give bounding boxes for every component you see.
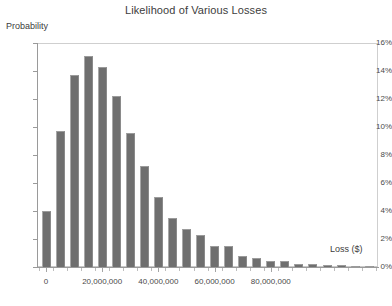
- x-tick-label: 40,000,000: [138, 277, 178, 286]
- x-minor-tick-mark: [194, 268, 195, 271]
- x-minor-tick-mark: [264, 268, 265, 271]
- x-tick-mark: [271, 268, 272, 272]
- bar: [280, 261, 289, 267]
- x-minor-tick-mark: [67, 268, 68, 271]
- bar: [365, 266, 374, 267]
- bar: [323, 265, 332, 267]
- likelihood-of-losses-chart: Likelihood of Various Losses Probability…: [0, 0, 392, 306]
- bar: [252, 258, 261, 267]
- x-minor-tick-mark: [123, 268, 124, 271]
- x-minor-tick-mark: [151, 268, 152, 271]
- bar: [140, 166, 149, 267]
- bar: [266, 261, 275, 267]
- x-minor-tick-mark: [250, 268, 251, 271]
- x-minor-tick-mark: [362, 268, 363, 271]
- bar: [210, 246, 219, 267]
- bar: [126, 133, 135, 267]
- x-tick-mark: [102, 268, 103, 272]
- bar: [98, 67, 107, 267]
- x-minor-tick-mark: [39, 268, 40, 271]
- x-tick-label: 60,000,000: [195, 277, 235, 286]
- x-tick-mark: [215, 268, 216, 272]
- bar: [168, 218, 177, 267]
- bar: [224, 246, 233, 267]
- x-tick-label: 80,000,000: [251, 277, 291, 286]
- x-minor-tick-mark: [376, 268, 377, 271]
- x-minor-tick-mark: [334, 268, 335, 271]
- bar: [308, 264, 317, 267]
- y-tick-mark: [33, 267, 37, 268]
- bar: [238, 256, 247, 267]
- x-minor-tick-mark: [165, 268, 166, 271]
- x-minor-tick-mark: [53, 268, 54, 271]
- x-minor-tick-mark: [222, 268, 223, 271]
- bar: [196, 235, 205, 267]
- x-tick-label: 0: [44, 277, 48, 286]
- x-minor-tick-mark: [292, 268, 293, 271]
- x-axis-label: Loss ($): [330, 244, 363, 254]
- bar: [56, 131, 65, 267]
- x-minor-tick-mark: [236, 268, 237, 271]
- x-minor-tick-mark: [348, 268, 349, 271]
- bar: [182, 229, 191, 267]
- bar: [337, 265, 346, 267]
- y-axis-label: Probability: [6, 21, 48, 31]
- x-minor-tick-mark: [109, 268, 110, 271]
- chart-title: Likelihood of Various Losses: [0, 4, 392, 16]
- bar: [112, 96, 121, 267]
- x-minor-tick-mark: [81, 268, 82, 271]
- bar: [70, 75, 79, 267]
- x-tick-mark: [158, 268, 159, 272]
- x-minor-tick-mark: [179, 268, 180, 271]
- bar: [154, 197, 163, 267]
- x-minor-tick-mark: [320, 268, 321, 271]
- bar: [351, 266, 360, 267]
- bar-series: [37, 43, 378, 267]
- bar: [294, 264, 303, 268]
- x-tick-mark: [46, 268, 47, 272]
- x-minor-tick-mark: [137, 268, 138, 271]
- x-minor-tick-mark: [208, 268, 209, 271]
- x-minor-tick-mark: [306, 268, 307, 271]
- bar: [42, 211, 51, 267]
- x-tick-label: 20,000,000: [82, 277, 122, 286]
- x-minor-tick-mark: [95, 268, 96, 271]
- x-minor-tick-mark: [278, 268, 279, 271]
- bar: [84, 56, 93, 267]
